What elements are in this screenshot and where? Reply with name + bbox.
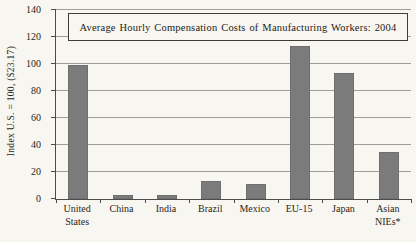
x-label-china: China [99, 203, 143, 228]
x-label-line: Brazil [188, 203, 232, 216]
chart-title: Average Hourly Compensation Costs of Man… [80, 22, 397, 33]
x-label-line: NIEs* [366, 216, 410, 229]
x-label-line: Mexico [233, 203, 277, 216]
y-tick-label-140: 140 [26, 5, 41, 15]
y-tick-label-0: 0 [36, 194, 41, 204]
bar-japan [334, 73, 354, 199]
x-label-brazil: Brazil [188, 203, 232, 228]
bar-india [157, 195, 177, 199]
x-label-line: EU-15 [277, 203, 321, 216]
bar-chart-figure: Index U.S. = 100, ($23.17) Average Hourl… [0, 0, 416, 242]
x-label-line: United [55, 203, 99, 216]
x-label-line: India [144, 203, 188, 216]
plot-area: Average Hourly Compensation Costs of Man… [55, 10, 411, 200]
chart-title-box: Average Hourly Compensation Costs of Man… [68, 13, 408, 41]
x-label-united-states: UnitedStates [55, 203, 99, 228]
y-tick-label-60: 60 [31, 113, 41, 123]
x-label-line: Japan [321, 203, 365, 216]
x-label-eu-15: EU-15 [277, 203, 321, 228]
bar-mexico [246, 184, 266, 199]
y-tick-labels: 020406080100120140 [0, 10, 49, 199]
x-label-india: India [144, 203, 188, 228]
y-tick-label-120: 120 [26, 32, 41, 42]
y-tick-label-80: 80 [31, 86, 41, 96]
x-label-line: China [99, 203, 143, 216]
y-tick-label-100: 100 [26, 59, 41, 69]
bar-united-states [68, 65, 88, 199]
x-category-labels: UnitedStatesChinaIndiaBrazilMexicoEU-15J… [55, 203, 410, 228]
bar-china [113, 195, 133, 199]
x-label-japan: Japan [321, 203, 365, 228]
y-tick-label-40: 40 [31, 140, 41, 150]
bar-brazil [201, 181, 221, 199]
x-tick-mark-8 [411, 199, 412, 203]
x-label-line: Asian [366, 203, 410, 216]
x-label-asian-nies-: AsianNIEs* [366, 203, 410, 228]
y-tick-label-20: 20 [31, 167, 41, 177]
bar-eu-15 [290, 46, 310, 199]
bar-asian-nies- [379, 152, 399, 199]
x-label-line: States [55, 216, 99, 229]
x-label-mexico: Mexico [233, 203, 277, 228]
